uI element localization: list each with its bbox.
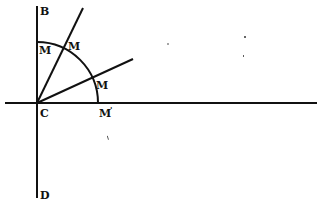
label-m-axis-prime: ' <box>110 104 112 114</box>
label-d: D <box>40 189 50 202</box>
scan-speck <box>244 36 246 38</box>
label-m-shallow: M <box>96 79 108 92</box>
label-c: C <box>40 107 49 120</box>
label-b: B <box>40 5 49 18</box>
label-m-top: M <box>39 44 51 57</box>
scan-speck <box>243 55 244 57</box>
scan-speck <box>107 136 109 140</box>
geometry-diagram: B C D M M M M ' <box>0 0 319 204</box>
scan-speck <box>167 43 169 45</box>
label-m-steep: M <box>68 40 80 53</box>
diagram-canvas: B C D M M M M ' <box>0 0 319 204</box>
